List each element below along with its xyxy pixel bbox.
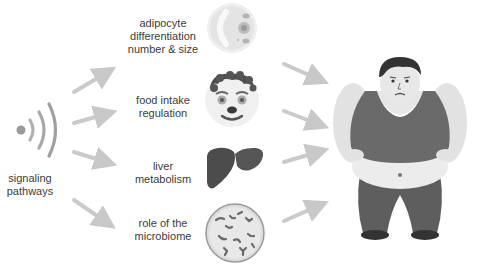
arrow-to-food-intake <box>74 114 106 123</box>
liver-icon <box>204 146 268 190</box>
hungry-face-icon <box>200 66 264 130</box>
arrow-to-adipocyte <box>74 73 106 92</box>
factor-label-adipocyte: adipocyte differentiation number & size <box>118 17 208 56</box>
arrow-to-microbiome <box>74 200 106 222</box>
adipocyte-cell-icon <box>202 0 262 60</box>
factor-label-microbiome: role of the microbiome <box>118 217 208 243</box>
arrow-from-adipocyte <box>284 64 318 79</box>
arrow-to-liver <box>74 152 106 162</box>
factor-label-food-intake: food intake regulation <box>118 94 208 120</box>
microbiome-petri-icon <box>204 202 268 266</box>
arrow-from-liver <box>284 152 318 162</box>
factor-label-liver: liver metabolism <box>118 160 208 186</box>
arrow-from-food-intake <box>284 111 318 124</box>
obese-man-icon <box>325 55 475 265</box>
arrow-from-microbiome <box>284 206 318 221</box>
